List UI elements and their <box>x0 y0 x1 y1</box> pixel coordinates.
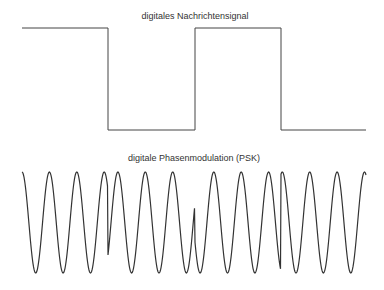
diagram-canvas <box>0 0 384 290</box>
psk-sine-wave <box>22 172 366 273</box>
digital-square-wave <box>22 28 366 130</box>
